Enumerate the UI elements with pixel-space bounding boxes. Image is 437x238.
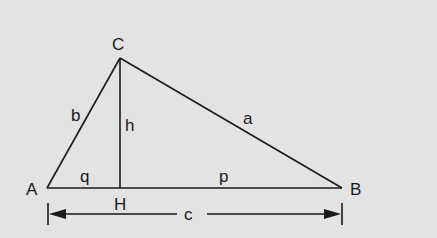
segment-label-b: b <box>71 106 80 125</box>
background <box>0 0 437 238</box>
vertex-label-a: A <box>26 180 38 199</box>
vertex-label-c: C <box>112 35 124 54</box>
segment-label-h: h <box>125 116 134 135</box>
segment-label-q: q <box>80 167 89 186</box>
vertex-label-b: B <box>350 180 361 199</box>
segment-label-p: p <box>219 167 228 186</box>
dimension-label-c: c <box>184 205 193 224</box>
triangle-diagram: A B C H a b h q p c <box>0 0 437 238</box>
segment-label-a: a <box>243 109 253 128</box>
foot-label-h: H <box>114 195 126 214</box>
